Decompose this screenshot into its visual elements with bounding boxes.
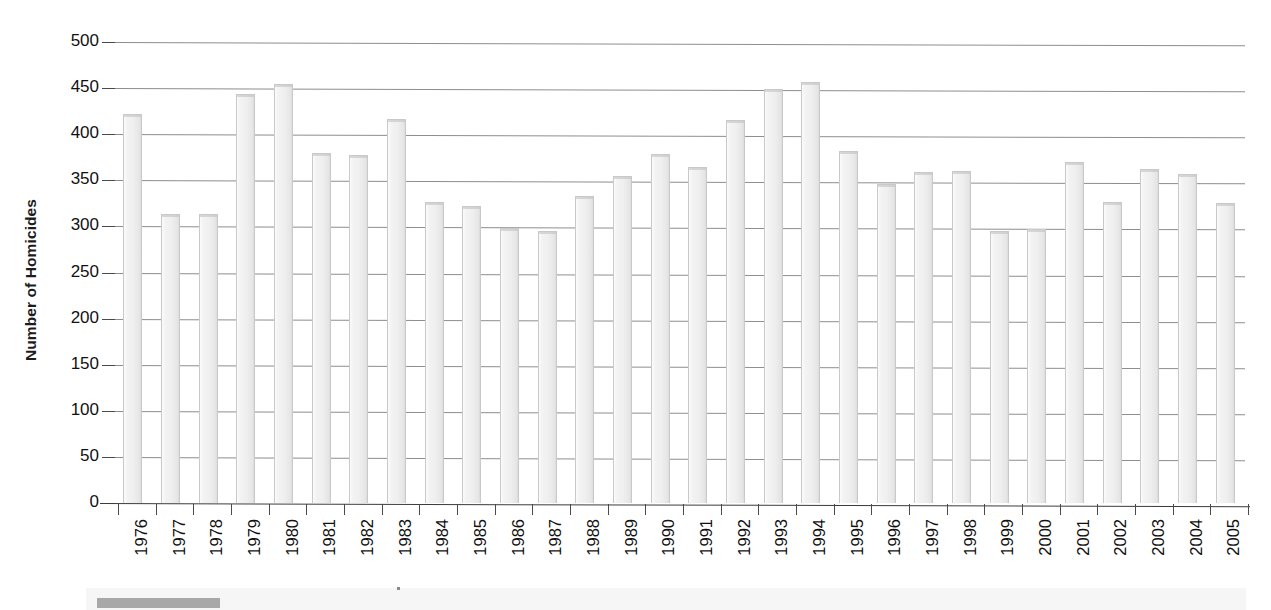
x-axis-label-text: 1977 [170,519,187,556]
x-tick-1982 [344,504,345,515]
x-tick-1994 [796,504,797,515]
y-tick-mark-250 [102,273,115,274]
page-footer-artifact [86,588,1246,610]
page-footer-bar-artifact [97,598,220,608]
y-tick-label-0: 0 [90,492,99,512]
page-speck-artifact [397,587,400,590]
x-tick-1987 [532,504,533,515]
bar-1990 [651,154,670,503]
x-tick-1998 [947,504,948,515]
bar-1981 [312,153,331,503]
x-tick-1980 [269,504,270,515]
y-axis-ticks: 500450400350300250200150100500 [55,42,115,503]
bar-1980 [274,84,293,504]
y-tick-label-450: 450 [71,77,99,97]
x-tick-1999 [984,504,985,515]
x-axis-label-text: 2000 [1036,519,1053,556]
bars-group [115,42,1245,503]
x-tick-2004 [1173,504,1174,515]
y-tick-label-350: 350 [71,169,99,189]
x-tick-1993 [758,504,759,515]
x-axis-label-text: 1996 [886,519,903,556]
x-axis-label-text: 2004 [1187,519,1204,556]
x-tick-1984 [419,504,420,515]
x-axis-line [100,503,1250,507]
x-tick-2005 [1210,504,1211,515]
bar-1982 [349,155,368,503]
bar-1993 [764,89,783,503]
homicides-bar-chart: Number of Homicides 50045040035030025020… [0,0,1271,610]
y-tick-label-500: 500 [71,31,99,51]
x-tick-1997 [909,504,910,515]
x-tick-1991 [683,504,684,515]
x-axis-label-text: 1984 [434,519,451,556]
y-tick-label-50: 50 [80,446,99,466]
bar-1976 [123,114,142,503]
x-tick-1979 [231,504,232,515]
x-tick-1976 [118,504,119,515]
y-tick-mark-500 [102,42,115,43]
y-tick-label-100: 100 [71,400,99,420]
bar-1992 [726,120,745,503]
bar-1977 [161,214,180,503]
x-tick-1983 [382,504,383,515]
x-axis-label-text: 1995 [848,519,865,556]
bar-2002 [1103,202,1122,503]
x-tick-2000 [1022,504,1023,515]
x-axis-label-text: 1992 [735,519,752,556]
y-axis-title-label: Number of Homicides [22,199,40,361]
x-tick-2001 [1060,504,1061,515]
x-axis-label-text: 1993 [773,519,790,556]
x-tick-1981 [306,504,307,515]
x-axis-label-text: 1986 [509,519,526,556]
x-axis-label-text: 1991 [697,519,714,556]
x-tick-1977 [156,504,157,515]
x-tick-1986 [495,504,496,515]
y-tick-mark-150 [102,365,115,366]
bar-1984 [425,202,444,503]
bar-1998 [952,171,971,503]
bar-1996 [877,184,896,503]
x-tick-2002 [1097,504,1098,515]
x-axis-label-text: 1979 [245,519,262,556]
y-tick-label-250: 250 [71,262,99,282]
bar-1999 [990,231,1009,503]
bar-2001 [1065,162,1084,503]
bar-1988 [575,196,594,503]
y-tick-mark-50 [102,457,115,458]
x-axis-label-text: 1990 [660,519,677,556]
x-tick-1992 [721,504,722,515]
bar-2004 [1178,174,1197,503]
y-tick-mark-200 [102,319,115,320]
bar-2005 [1216,203,1235,503]
x-axis-label-text: 2003 [1149,519,1166,556]
x-axis-label-text: 2002 [1112,519,1129,556]
y-tick-mark-350 [102,180,115,181]
bar-1994 [801,82,820,503]
x-tick-1989 [608,504,609,515]
x-axis-label-text: 1988 [584,519,601,556]
y-tick-label-200: 200 [71,308,99,328]
x-tick-1988 [570,504,571,515]
bar-2003 [1140,169,1159,503]
x-tick-1995 [834,504,835,515]
x-axis-label-text: 1982 [358,519,375,556]
y-tick-label-150: 150 [71,354,99,374]
x-tick-1990 [645,504,646,515]
x-axis-label-text: 2001 [1074,519,1091,556]
x-axis-label-text: 1985 [471,519,488,556]
x-axis-label-text: 1997 [923,519,940,556]
x-axis-label-text: 1976 [132,519,149,556]
x-axis-label-text: 1998 [961,519,978,556]
x-tick-2003 [1135,504,1136,515]
y-tick-label-300: 300 [71,215,99,235]
y-tick-mark-100 [102,411,115,412]
y-tick-mark-450 [102,88,115,89]
bar-1985 [462,206,481,503]
x-axis-label-text: 1978 [208,519,225,556]
y-tick-mark-300 [102,226,115,227]
x-axis-label-text: 1987 [547,519,564,556]
x-axis-label-text: 1994 [810,519,827,556]
x-axis-label-text: 1989 [622,519,639,556]
bar-1991 [688,167,707,503]
